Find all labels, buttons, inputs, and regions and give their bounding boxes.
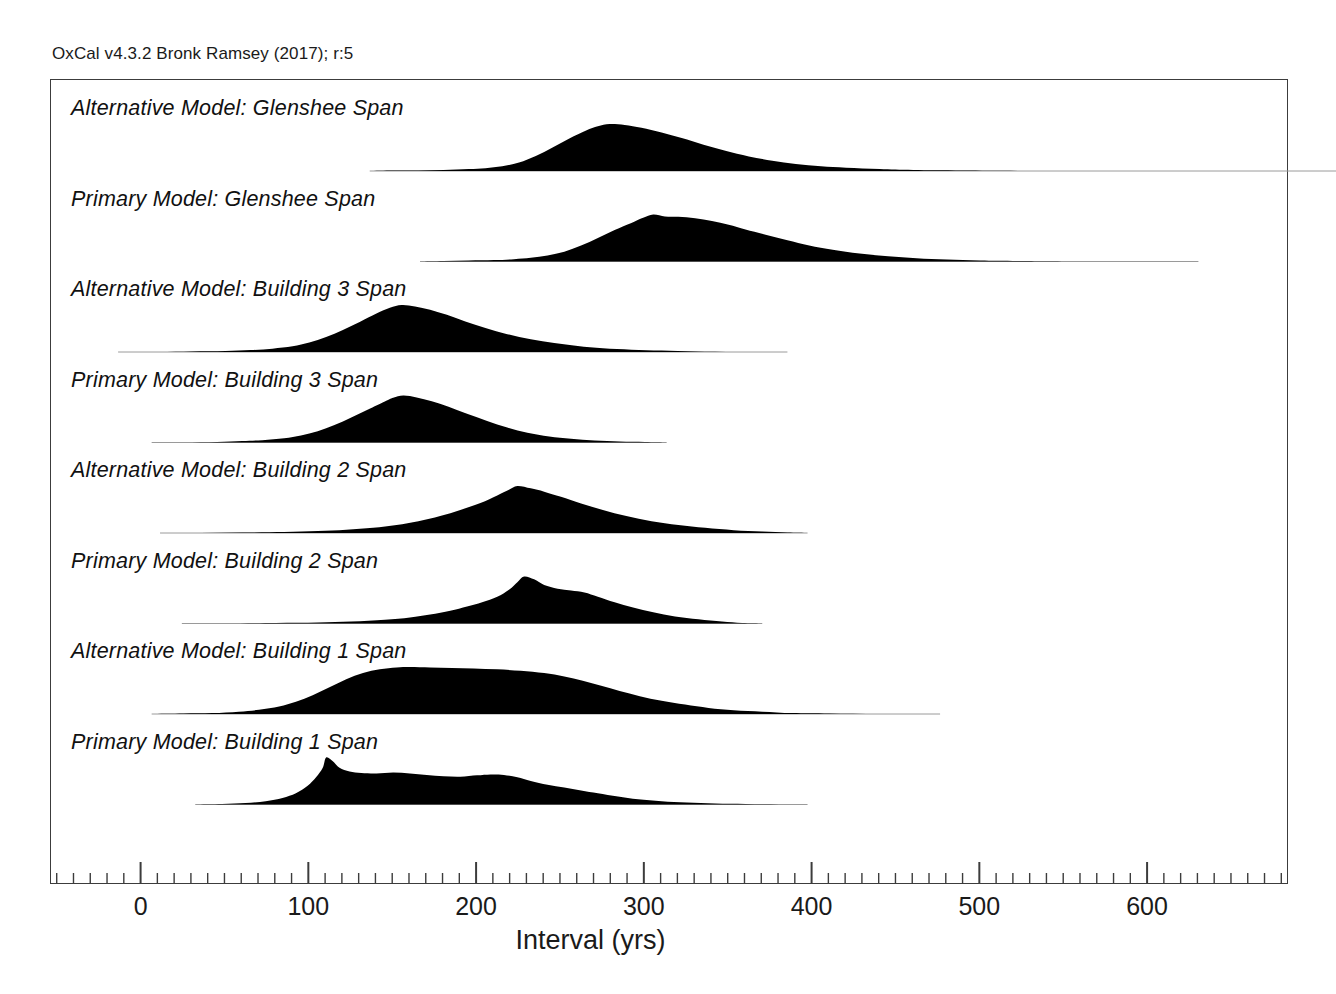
x-axis-title-text: Interval (yrs) bbox=[515, 925, 665, 956]
x-tick-label: 600 bbox=[1126, 892, 1168, 921]
x-tick-label: 400 bbox=[791, 892, 833, 921]
x-tick-label: 500 bbox=[958, 892, 1000, 921]
x-axis-title: Interval (yrs) bbox=[0, 925, 1336, 956]
x-tick-label: 100 bbox=[287, 892, 329, 921]
x-axis-ticks bbox=[0, 0, 1336, 994]
x-tick-label: 300 bbox=[623, 892, 665, 921]
oxcal-figure: OxCal v4.3.2 Bronk Ramsey (2017); r:5 Al… bbox=[0, 0, 1336, 994]
x-tick-label: 200 bbox=[455, 892, 497, 921]
x-tick-label: 0 bbox=[134, 892, 148, 921]
